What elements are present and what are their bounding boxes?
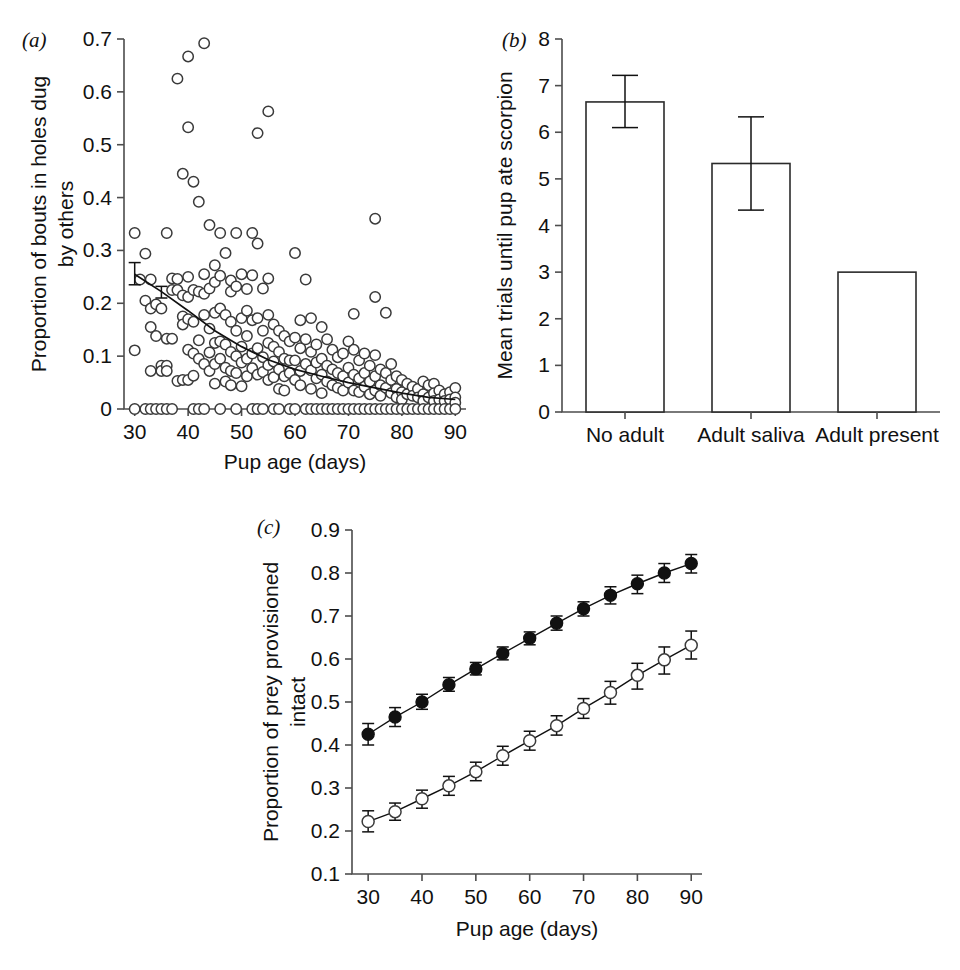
panel-c-y-tick-label: 0.7: [311, 604, 340, 627]
data-point-open-circle: [204, 220, 214, 230]
panel-b-canvas: 012345678Mean trials until pup ate scorp…: [480, 0, 960, 480]
data-point-open-circle: [129, 228, 139, 238]
panel-c-ylabel-line1: Proportion of prey provisioned: [259, 562, 282, 842]
panel-c-y-tick-label: 0.5: [311, 690, 340, 713]
panel-b-y-tick-label: 2: [538, 307, 550, 330]
data-point-open-circle: [524, 735, 536, 747]
data-point-open-circle: [129, 345, 139, 355]
data-point-filled-circle: [524, 632, 536, 644]
panel-b-y-tick-label: 5: [538, 167, 550, 190]
data-point-open-circle: [231, 368, 241, 378]
data-point-open-circle: [258, 404, 268, 414]
panel-c-line: (c) 0.10.20.30.40.50.60.70.80.9304050607…: [240, 490, 960, 970]
data-point-open-circle: [317, 388, 327, 398]
data-point-open-circle: [194, 335, 204, 345]
data-point-open-circle: [183, 51, 193, 61]
panel-c-series-open-circles: [362, 631, 697, 832]
data-point-open-circle: [188, 371, 198, 381]
data-point-open-circle: [295, 380, 305, 390]
data-point-open-circle: [252, 238, 262, 248]
data-point-open-circle: [194, 197, 204, 207]
panel-c-y-tick-label: 0.8: [311, 561, 340, 584]
data-point-open-circle: [685, 639, 697, 651]
data-point-open-circle: [365, 360, 375, 370]
bar-adult-present: [838, 272, 916, 412]
data-point-open-circle: [140, 248, 150, 258]
panel-a-y-tick-label: 0.1: [83, 344, 112, 367]
panel-b-y-tick-label: 4: [538, 214, 550, 237]
data-point-open-circle: [242, 284, 252, 294]
panel-a-x-tick-label: 80: [390, 420, 413, 443]
panel-c-y-tick-label: 0.9: [311, 518, 340, 541]
panel-c-x-tick-label: 80: [626, 885, 649, 908]
data-point-open-circle: [204, 347, 214, 357]
panel-a-x-tick-label: 30: [123, 420, 146, 443]
panel-c-series-filled-circles: [362, 555, 697, 745]
panel-a-y-tick-label: 0.4: [83, 186, 113, 209]
data-point-open-circle: [236, 269, 246, 279]
panel-a-x-tick-label: 90: [444, 420, 467, 443]
data-point-open-circle: [306, 384, 316, 394]
panel-a-y-tick-label: 0.7: [83, 27, 112, 50]
data-point-open-circle: [349, 309, 359, 319]
data-point-filled-circle: [362, 728, 374, 740]
data-point-open-circle: [551, 720, 563, 732]
data-point-open-circle: [290, 404, 300, 414]
data-point-open-circle: [167, 334, 177, 344]
data-point-open-circle: [370, 292, 380, 302]
data-point-open-circle: [263, 310, 273, 320]
panel-c-x-tick-label: 30: [356, 885, 379, 908]
data-point-open-circle: [172, 73, 182, 83]
data-point-filled-circle: [497, 647, 509, 659]
data-point-open-circle: [450, 404, 460, 414]
data-point-open-circle: [199, 38, 209, 48]
data-point-open-circle: [263, 273, 273, 283]
panel-b-letter: (b): [502, 28, 527, 53]
panel-c-y-tick-label: 0.1: [311, 862, 340, 885]
panel-b-y-tick-label: 6: [538, 120, 550, 143]
data-point-open-circle: [604, 687, 616, 699]
data-point-open-circle: [295, 315, 305, 325]
panel-b-x-tick-label: Adult present: [815, 423, 939, 446]
data-point-filled-circle: [658, 567, 670, 579]
panel-a-letter: (a): [22, 28, 47, 53]
panel-b-y-tick-label: 7: [538, 74, 550, 97]
data-point-open-circle: [162, 366, 172, 376]
panel-b-bar: (b) 012345678Mean trials until pup ate s…: [480, 0, 960, 480]
panel-b-x-tick-label: Adult saliva: [697, 423, 805, 446]
panel-a-ylabel-line1: Proportion of bouts in holes dug: [27, 76, 50, 373]
data-point-filled-circle: [604, 589, 616, 601]
panel-c-x-tick-label: 60: [518, 885, 541, 908]
data-point-open-circle: [247, 228, 257, 238]
data-point-open-circle: [300, 274, 310, 284]
panel-a-xlabel: Pup age (days): [224, 450, 366, 473]
data-point-open-circle: [178, 169, 188, 179]
panel-c-x-tick-label: 90: [680, 885, 703, 908]
data-point-open-circle: [183, 122, 193, 132]
data-point-open-circle: [389, 806, 401, 818]
data-point-open-circle: [231, 404, 241, 414]
data-point-open-circle: [279, 385, 289, 395]
data-point-open-circle: [274, 404, 284, 414]
panel-a-x-tick-label: 50: [230, 420, 253, 443]
figure-root: (a) 00.10.20.30.40.50.60.730405060708090…: [0, 0, 960, 970]
panel-c-y-tick-label: 0.6: [311, 647, 340, 670]
panel-a-y-tick-label: 0.3: [83, 238, 112, 261]
data-point-open-circle: [290, 355, 300, 365]
data-point-open-circle: [362, 816, 374, 828]
panel-a-scatter: (a) 00.10.20.30.40.50.60.730405060708090…: [0, 0, 480, 480]
data-point-open-circle: [236, 381, 246, 391]
data-point-open-circle: [151, 331, 161, 341]
panel-a-y-tick-label: 0.6: [83, 80, 112, 103]
data-point-open-circle: [242, 331, 252, 341]
panel-a-y-tick-label: 0.2: [83, 291, 112, 314]
panel-c-letter: (c): [257, 515, 280, 540]
data-point-open-circle: [231, 281, 241, 291]
data-point-open-circle: [210, 378, 220, 388]
data-point-open-circle: [306, 313, 316, 323]
data-point-open-circle: [317, 322, 327, 332]
panel-c-ylabel-line2: intact: [286, 677, 309, 727]
data-point-open-circle: [322, 334, 332, 344]
data-point-open-circle: [231, 228, 241, 238]
data-point-open-circle: [183, 272, 193, 282]
